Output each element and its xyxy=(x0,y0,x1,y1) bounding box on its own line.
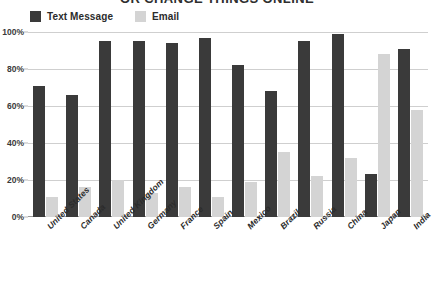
bar-group xyxy=(162,32,195,217)
y-axis: 0%20%40%60%80%100% xyxy=(0,26,28,217)
y-axis-tick-label: 80% xyxy=(7,64,24,74)
x-axis-labels: United StatesCanadaUnited KingdomGermany… xyxy=(28,224,428,290)
y-axis-tick-label: 60% xyxy=(7,101,24,111)
bar-group xyxy=(261,32,294,217)
bar-text-message[interactable] xyxy=(166,43,178,217)
bar-email[interactable] xyxy=(345,158,357,217)
bar-text-message[interactable] xyxy=(265,91,277,217)
legend-label-email: Email xyxy=(152,11,179,22)
bar-group xyxy=(195,32,228,217)
bar-text-message[interactable] xyxy=(298,41,310,217)
legend-item-email[interactable]: Email xyxy=(135,11,179,22)
chart-title-clip: OR CHANGE THINGS ONLINE xyxy=(0,0,434,7)
chart-screenshot: { "title": "OR CHANGE THINGS ONLINE", "l… xyxy=(0,0,434,292)
legend-label-text-message: Text Message xyxy=(47,11,113,22)
bar-text-message[interactable] xyxy=(332,34,344,217)
bar-text-message[interactable] xyxy=(99,41,111,217)
bar-group xyxy=(228,32,261,217)
legend-swatch-text-message xyxy=(30,11,41,22)
legend-swatch-email xyxy=(135,11,146,22)
bar-text-message[interactable] xyxy=(199,38,211,217)
legend-item-text-message[interactable]: Text Message xyxy=(30,11,113,22)
y-axis-tick-label: 0% xyxy=(12,212,24,222)
bar-email[interactable] xyxy=(278,152,290,217)
chart-legend: Text Message Email xyxy=(30,8,179,24)
bar-group xyxy=(328,32,361,217)
bar-text-message[interactable] xyxy=(398,49,410,217)
bar-email[interactable] xyxy=(311,176,323,217)
bar-group xyxy=(29,32,62,217)
bar-text-message[interactable] xyxy=(232,65,244,217)
bar-email[interactable] xyxy=(378,54,390,217)
bar-email[interactable] xyxy=(411,110,423,217)
y-axis-tick-label: 100% xyxy=(2,27,24,37)
bar-group xyxy=(394,32,427,217)
bar-group xyxy=(95,32,128,217)
bar-text-message[interactable] xyxy=(33,86,45,217)
bar-group xyxy=(294,32,327,217)
chart-plot-wrapper: 0%20%40%60%80%100% xyxy=(0,26,434,224)
y-axis-tick-label: 20% xyxy=(7,175,24,185)
bar-group xyxy=(361,32,394,217)
page-title: OR CHANGE THINGS ONLINE xyxy=(0,0,434,6)
y-axis-tick-label: 40% xyxy=(7,138,24,148)
